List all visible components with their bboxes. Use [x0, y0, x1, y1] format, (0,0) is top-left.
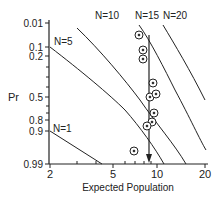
observation-point	[143, 122, 151, 130]
y-axis-label: Pr	[8, 91, 19, 103]
y-tick-label: 0.01	[24, 18, 44, 29]
x-tick-label: 5	[110, 168, 116, 180]
observation-point	[139, 55, 147, 63]
curve-label-n15: N=15	[135, 10, 160, 21]
y-tick-label: 0.9	[29, 126, 43, 137]
chart: 0.01 0.1 0.2 0.5 0.8 0.9 0.99 Pr 2 5 10 …	[0, 0, 224, 198]
observation-point	[152, 90, 160, 98]
x-tick-label: 20	[199, 168, 211, 180]
y-tick-label: 0.99	[24, 159, 44, 170]
curve-label-n1: N=1	[53, 123, 72, 134]
observation-point	[150, 109, 158, 117]
observation-point	[149, 79, 157, 87]
x-tick-label: 10	[151, 168, 163, 180]
y-tick-label: 0.5	[29, 92, 43, 103]
y-tick-label: 0.2	[29, 51, 43, 62]
observation-point	[135, 31, 143, 39]
curve-n10	[77, 28, 186, 164]
observation-point	[139, 46, 147, 54]
curve-n5	[50, 47, 164, 164]
curves	[50, 25, 206, 164]
curve-label-n5: N=5	[54, 36, 73, 47]
y-tick-label: 0.8	[29, 115, 43, 126]
curve-label-n10: N=10	[95, 10, 120, 21]
curve-n20	[163, 25, 205, 100]
observation-point	[130, 147, 138, 155]
x-axis-label: Expected Population	[82, 182, 174, 193]
curve-label-n20: N=20	[163, 10, 188, 21]
curve-n1	[50, 131, 102, 164]
x-tick-label: 2	[47, 168, 53, 180]
